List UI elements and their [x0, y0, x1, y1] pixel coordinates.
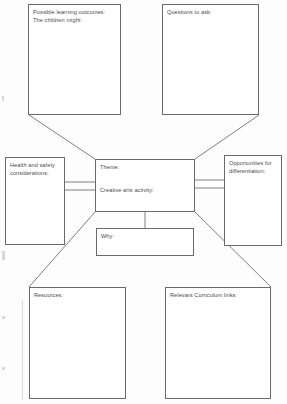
label-why: Why: [101, 233, 114, 241]
box-opportunities-for-differentiation[interactable]: Opportunities for differentiation: [224, 155, 282, 246]
label-resources: Resources: [34, 292, 63, 300]
scan-artifact [2, 96, 4, 101]
worksheet-page: Possible learning outcomes: The children… [0, 0, 287, 404]
box-questions-to-ask[interactable]: Questions to ask: [162, 4, 259, 115]
connector-outcomes-to-center [29, 115, 95, 159]
label-theme: Theme: [100, 164, 119, 172]
label-outcomes-line2: The children might: [33, 17, 82, 25]
box-possible-learning-outcomes[interactable]: Possible learning outcomes: The children… [28, 4, 121, 115]
scan-artifact [2, 316, 5, 319]
scan-artifact [2, 367, 5, 370]
label-opportunities-line1: Opportunities for [229, 160, 272, 168]
box-resources[interactable]: Resources: [29, 287, 126, 399]
label-health-line2: considerations: [10, 170, 49, 178]
box-theme-creative-arts-activity[interactable]: Theme: Creative arts activity: [95, 159, 195, 212]
scan-artifact [2, 251, 5, 260]
label-opportunities-line2: differentiation: [229, 168, 265, 176]
box-relevant-curriculum-links[interactable]: Relevant Curriculum links: [165, 287, 271, 399]
label-questions-line1: Questions to ask: [167, 9, 212, 17]
label-creative-arts-activity: Creative arts activity: [100, 187, 154, 195]
scan-edge-line [22, 300, 23, 400]
label-outcomes-line1: Possible learning outcomes: [33, 9, 105, 17]
box-health-and-safety[interactable]: Health and safety considerations: [5, 157, 65, 245]
box-why[interactable]: Why: [96, 228, 194, 256]
label-curriculum: Relevant Curriculum links: [170, 292, 237, 300]
connector-questions-to-center [195, 115, 259, 159]
label-health-line1: Health and safety [10, 162, 55, 170]
